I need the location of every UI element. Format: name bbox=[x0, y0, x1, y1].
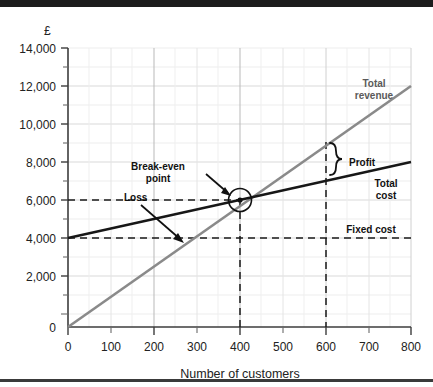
total-revenue-label-line2: revenue bbox=[355, 90, 394, 101]
x-axis-ticks bbox=[68, 327, 411, 335]
x-tick-0: 0 bbox=[65, 340, 72, 354]
total-cost-label-line2: cost bbox=[376, 190, 397, 201]
y-tick-0: 0 bbox=[49, 321, 56, 335]
x-axis-tick-labels: 0 100 200 300 400 500 600 700 800 bbox=[65, 340, 422, 354]
y-tick-14000: 14,000 bbox=[19, 42, 56, 56]
y-tick-12000: 12,000 bbox=[19, 80, 56, 94]
x-tick-400: 400 bbox=[230, 340, 250, 354]
total-revenue-label-line1: Total bbox=[362, 78, 385, 89]
fixed-cost-label: Fixed cost bbox=[346, 224, 396, 235]
y-tick-2000: 2,000 bbox=[26, 270, 56, 284]
profit-brace-icon bbox=[330, 143, 342, 175]
total-cost-label-line1: Total bbox=[374, 178, 397, 189]
x-tick-200: 200 bbox=[144, 340, 164, 354]
x-tick-600: 600 bbox=[316, 340, 336, 354]
x-tick-800: 800 bbox=[401, 340, 421, 354]
x-tick-700: 700 bbox=[359, 340, 379, 354]
break-even-label-line1: Break-even bbox=[131, 161, 185, 172]
x-tick-100: 100 bbox=[101, 340, 121, 354]
page-top-rule bbox=[0, 0, 433, 7]
page-bottom-rule bbox=[0, 379, 433, 382]
y-tick-10000: 10,000 bbox=[19, 118, 56, 132]
profit-label: Profit bbox=[349, 157, 376, 168]
x-tick-500: 500 bbox=[273, 340, 293, 354]
chart-svg: 14,000 12,000 10,000 8,000 6,000 4,000 2… bbox=[0, 7, 433, 379]
loss-arrow-icon bbox=[141, 205, 184, 243]
y-tick-8000: 8,000 bbox=[26, 156, 56, 170]
x-axis-title: Number of customers bbox=[180, 367, 299, 379]
loss-label: Loss bbox=[124, 192, 148, 203]
y-axis-tick-labels: 14,000 12,000 10,000 8,000 6,000 4,000 2… bbox=[19, 42, 56, 335]
y-axis-ticks bbox=[61, 48, 68, 314]
break-even-label-line2: point bbox=[146, 173, 171, 184]
y-tick-6000: 6,000 bbox=[26, 194, 56, 208]
break-even-chart-figure: £ bbox=[0, 7, 433, 379]
x-tick-300: 300 bbox=[187, 340, 207, 354]
y-tick-4000: 4,000 bbox=[26, 232, 56, 246]
